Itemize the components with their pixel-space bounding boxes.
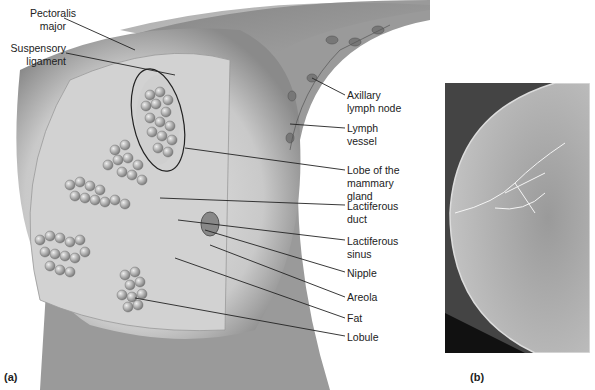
label-lobe-mammary-gland: Lobe of the mammary gland	[347, 164, 400, 203]
label-pectoralis-major: Pectoralis major	[30, 7, 66, 33]
label-axillary-lymph-node: Axillary lymph node	[347, 89, 401, 115]
label-areola: Areola	[347, 291, 377, 304]
label-lymph-vessel: Lymph vessel	[347, 122, 378, 148]
label-nipple: Nipple	[347, 267, 377, 280]
panel-label-b: (b)	[470, 371, 484, 383]
label-fat: Fat	[347, 312, 362, 325]
label-lobule: Lobule	[347, 331, 379, 344]
label-suspensory-ligament: Suspensory ligament	[6, 42, 66, 68]
label-lactiferous-duct: Lactiferous duct	[347, 200, 398, 226]
mammogram-image	[445, 83, 590, 353]
label-lactiferous-sinus: Lactiferous sinus	[347, 235, 398, 261]
panel-label-a: (a)	[4, 371, 17, 383]
